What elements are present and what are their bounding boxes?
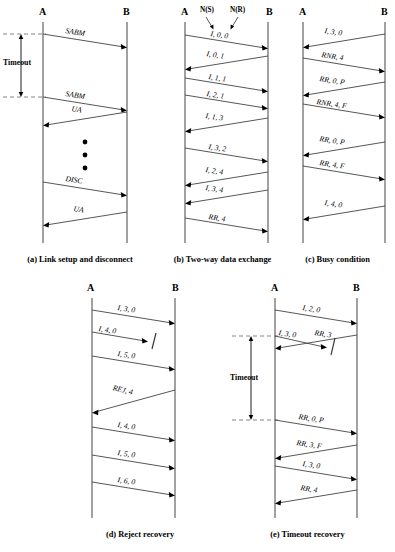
panel-b-frame-3-arrow: [185, 95, 268, 111]
panel-a-timeout-label: Timeout: [3, 58, 31, 67]
panel-b-frame-6-arrow: [185, 172, 268, 188]
panel-a-frame-0-arrow: [43, 34, 127, 50]
panel-b-two-way-exchange: A B N(S) N(R): [160, 0, 285, 250]
panel-b-frame-4-arrow: [185, 118, 268, 134]
panel-b-frame-1-arrow: [185, 56, 268, 72]
panel-c-frame-0-arrow: [303, 34, 385, 50]
panel-d-svg: [60, 278, 220, 523]
panel-b-ns-pointer-arrow: [206, 17, 214, 30]
panel-e-timeout-label: Timeout: [230, 373, 258, 382]
panel-a-caption: (a) Link setup and disconnect: [0, 255, 160, 264]
panel-c-busy-condition: A B: [280, 0, 395, 250]
panel-a-link-setup: A B: [0, 0, 160, 250]
panel-c-svg: [280, 0, 395, 250]
panel-d-frame-1-lost-mark: [152, 333, 156, 349]
panel-a-frame-4-arrow: [43, 212, 127, 228]
panel-a-ellipsis: [83, 140, 88, 171]
panel-d-reject-recovery: A B: [60, 278, 220, 523]
panel-b-frame-7-arrow: [185, 190, 268, 206]
panel-e-caption: (e) Timeout recovery: [220, 530, 395, 539]
panel-a-frame-3-arrow: [43, 182, 127, 198]
panel-b-frame-5-arrow: [185, 148, 268, 164]
panel-c-caption: (c) Busy condition: [280, 255, 395, 264]
panel-b-frame-2-arrow: [185, 78, 268, 94]
panel-a-frame-1-arrow: [43, 97, 127, 113]
panel-c-frame-6-arrow: [303, 206, 385, 222]
panel-c-frame-1-arrow: [303, 58, 385, 74]
panel-e-timeout-recovery: A B: [220, 278, 395, 523]
panel-d-caption: (d) Reject recovery: [60, 530, 220, 539]
panel-e-frame-2-lost-mark: [331, 338, 335, 355]
panel-b-nr-pointer-arrow: [231, 17, 239, 30]
panel-a-frame-2-arrow: [43, 112, 127, 128]
panel-a-frame-4-label: UA: [73, 204, 84, 214]
panel-b-caption: (b) Two-way data exchange: [160, 255, 285, 264]
panel-b-frame-8-arrow: [185, 218, 268, 234]
panel-d-frame-1-arrow: [92, 332, 148, 344]
panel-a-frame-2-label: UA: [71, 104, 82, 114]
panel-d-frame-3-arrow: [92, 390, 175, 415]
hdlc-operation-figure: A B: [0, 0, 395, 552]
